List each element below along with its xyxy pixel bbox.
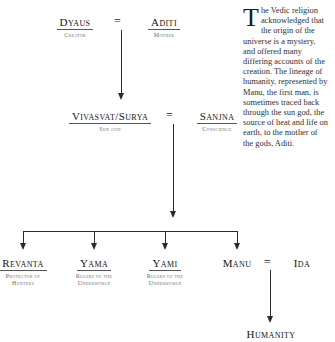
node-revanta-role-line1: Protector of bbox=[0, 273, 54, 281]
node-dyaus: Dyaus Creator bbox=[44, 12, 106, 39]
node-revanta-name: Revanta bbox=[0, 257, 47, 271]
node-yami: Yami Rulers of the Underworld bbox=[134, 253, 196, 288]
node-vivasvat-surya-name: Vivasvat/Surya bbox=[69, 110, 151, 124]
node-manu: Manu bbox=[208, 253, 266, 271]
node-aditi-name: Aditi bbox=[148, 16, 180, 30]
arrowhead-yama bbox=[91, 243, 97, 250]
node-sanjna: Sanjna Conscience bbox=[184, 106, 250, 133]
node-yami-role-line2: Underworld bbox=[134, 280, 196, 288]
node-sanjna-role: Conscience bbox=[184, 126, 250, 134]
union-sign-generation1: = bbox=[114, 15, 121, 27]
arrowhead-humanity bbox=[267, 316, 273, 323]
commentary-text-block: The Vedic religion acknowledged that the… bbox=[243, 6, 329, 149]
connector-generation1-to-generation2 bbox=[121, 30, 122, 95]
union-sign-generation2: = bbox=[166, 109, 173, 121]
node-yami-role-line1: Rulers of the bbox=[134, 273, 196, 281]
node-revanta: Revanta Protector of Hunters bbox=[0, 253, 54, 288]
arrowhead-manu bbox=[234, 243, 240, 250]
node-vivasvat-surya: Vivasvat/Surya Sun god bbox=[60, 106, 160, 133]
node-aditi-role: Mother bbox=[133, 32, 195, 40]
node-manu-name: Manu bbox=[220, 257, 255, 270]
sibling-bar bbox=[23, 231, 237, 232]
arrowhead-generation2 bbox=[118, 93, 124, 100]
arrowhead-yami bbox=[162, 243, 168, 250]
node-ida-name: Ida bbox=[291, 257, 313, 270]
connector-generation2-to-generation3 bbox=[173, 124, 174, 213]
node-humanity: Humanity bbox=[235, 324, 307, 342]
union-sign-generation3: = bbox=[264, 256, 271, 268]
node-aditi: Aditi Mother bbox=[133, 12, 195, 39]
node-yama-name: Yama bbox=[77, 257, 111, 271]
node-ida: Ida bbox=[280, 253, 324, 271]
node-yama-role-line2: Underworld bbox=[63, 280, 125, 288]
arrowhead-revanta bbox=[20, 243, 26, 250]
node-yama-role-line1: Rulers of the bbox=[63, 273, 125, 281]
node-yami-name: Yami bbox=[149, 257, 180, 271]
node-revanta-role-line2: Hunters bbox=[0, 280, 54, 288]
arrowhead-generation3-trunk bbox=[170, 211, 176, 218]
node-humanity-name: Humanity bbox=[244, 328, 299, 341]
node-sanjna-name: Sanjna bbox=[197, 110, 238, 124]
connector-generation3-to-humanity bbox=[270, 270, 271, 318]
node-yama: Yama Rulers of the Underworld bbox=[63, 253, 125, 288]
node-vivasvat-surya-role: Sun god bbox=[60, 126, 160, 134]
commentary-dropcap: T bbox=[243, 7, 261, 28]
node-dyaus-name: Dyaus bbox=[57, 16, 94, 30]
node-dyaus-role: Creator bbox=[44, 32, 106, 40]
